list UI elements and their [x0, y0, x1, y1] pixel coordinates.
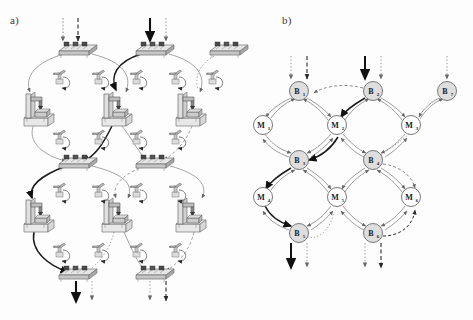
- panel-a-outputs: [76, 281, 166, 302]
- figure-canvas: B 1 B 2 B 7 B 3: [0, 0, 473, 320]
- node-B7-label: B: [442, 87, 448, 96]
- node-M3[interactable]: M 3: [402, 116, 421, 135]
- node-B2-label: B: [368, 87, 374, 96]
- node-B1-label: B: [294, 87, 300, 96]
- figure-root: a) b): [0, 0, 473, 320]
- node-M4[interactable]: M 4: [254, 188, 273, 207]
- node-B7[interactable]: B 7: [438, 82, 457, 101]
- node-B4[interactable]: B 4: [364, 151, 383, 170]
- node-B2[interactable]: B 2: [364, 82, 383, 101]
- node-M5-label: M: [331, 193, 339, 202]
- node-M2[interactable]: M 2: [328, 116, 347, 135]
- node-B6-label: B: [368, 229, 374, 238]
- node-B5-label: B: [294, 229, 300, 238]
- node-B6[interactable]: B 6: [364, 224, 383, 243]
- node-M5[interactable]: M 5: [328, 188, 347, 207]
- node-B5[interactable]: B 5: [290, 224, 309, 243]
- node-B4-label: B: [368, 156, 374, 165]
- panel-a-group: [24, 18, 248, 302]
- node-M4-label: M: [257, 193, 265, 202]
- panel-a-machines: [24, 92, 206, 232]
- node-M6[interactable]: M 6: [402, 188, 421, 207]
- panel-b-group: B 1 B 2 B 7 B 3: [254, 56, 457, 268]
- panel-b-machine-nodes: M 1 M 2 M 3 M 4: [254, 116, 421, 207]
- panel-b-outputs: [291, 243, 381, 268]
- node-M1[interactable]: M 1: [254, 116, 273, 135]
- panel-b-inputs: [291, 56, 447, 79]
- node-M2-label: M: [331, 121, 339, 130]
- panel-a-flow-curves: [28, 54, 214, 272]
- node-M3-label: M: [405, 121, 413, 130]
- node-B3-label: B: [294, 156, 300, 165]
- node-B3[interactable]: B 3: [290, 151, 309, 170]
- node-M1-label: M: [257, 121, 265, 130]
- node-B1[interactable]: B 1: [290, 82, 309, 101]
- panel-a-inputs: [63, 18, 166, 41]
- node-M6-label: M: [405, 193, 413, 202]
